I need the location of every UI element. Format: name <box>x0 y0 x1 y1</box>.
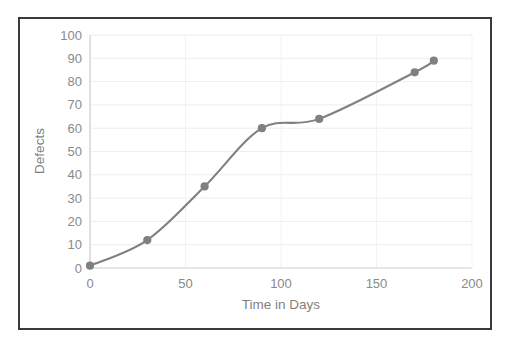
y-axis-tick-label: 10 <box>68 237 82 252</box>
data-point-marker <box>86 262 94 270</box>
chart-figure-frame: 0102030405060708090100 050100150200 Time… <box>18 17 492 330</box>
x-axis-tick-label: 200 <box>461 276 483 291</box>
data-point-marker <box>430 57 438 65</box>
y-axis-tick-label: 80 <box>68 74 82 89</box>
x-axis-tick-label: 150 <box>366 276 388 291</box>
data-point-marker <box>411 68 419 76</box>
x-axis-title: Time in Days <box>242 297 321 312</box>
y-axis-title: Defects <box>32 128 47 174</box>
data-point-marker <box>315 115 323 123</box>
defects-over-time-line-chart: 0102030405060708090100 050100150200 Time… <box>20 19 490 328</box>
data-point-marker <box>143 236 151 244</box>
y-axis-tick-label: 60 <box>68 121 82 136</box>
y-axis-tick-label: 40 <box>68 167 82 182</box>
y-axis-tick-label: 30 <box>68 191 82 206</box>
data-point-marker <box>201 182 209 190</box>
y-axis-tick-label: 90 <box>68 51 82 66</box>
x-axis-tick-label: 50 <box>178 276 192 291</box>
data-point-marker <box>258 124 266 132</box>
x-axis-tick-label: 0 <box>86 276 93 291</box>
y-axis-tick-label: 50 <box>68 144 82 159</box>
y-axis-tick-label: 100 <box>60 28 82 43</box>
y-axis-tick-label: 20 <box>68 214 82 229</box>
x-axis-tick-label: 100 <box>270 276 292 291</box>
y-axis-tick-label: 0 <box>75 261 82 276</box>
y-axis-tick-label: 70 <box>68 97 82 112</box>
